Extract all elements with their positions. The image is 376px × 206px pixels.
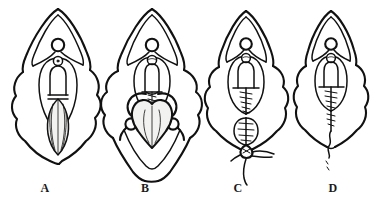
panel-label-d: D	[321, 182, 345, 194]
panel-d-drawing	[294, 11, 369, 170]
panel-label-a: A	[33, 182, 57, 194]
panel-label-c: C	[226, 182, 250, 194]
panel-a-drawing	[12, 9, 101, 164]
panel-b-drawing	[101, 9, 202, 182]
figure-illustration	[0, 0, 376, 206]
panel-c-drawing	[205, 11, 288, 185]
figure-container: A B C D	[0, 0, 376, 206]
panel-label-b: B	[133, 182, 157, 194]
